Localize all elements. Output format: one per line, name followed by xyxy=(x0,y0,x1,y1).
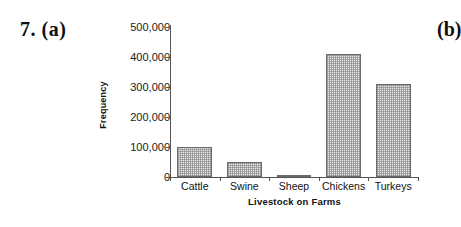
x-tick-mark xyxy=(170,177,171,181)
x-axis-title: Livestock on Farms xyxy=(170,196,419,207)
problem-number-label: 7. (a) xyxy=(20,18,66,41)
bar-cattle xyxy=(177,147,212,177)
x-tick-mark xyxy=(418,177,419,181)
bar-swine xyxy=(227,162,262,177)
bar-chickens xyxy=(326,54,361,177)
y-tick-label: 0 xyxy=(106,171,170,183)
x-tick-label: Chickens xyxy=(322,180,365,192)
x-tick-mark xyxy=(269,177,270,181)
x-tick-label: Swine xyxy=(230,180,259,192)
y-tick-label: 500,000 xyxy=(106,21,170,33)
part-b-label: (b) xyxy=(437,18,461,41)
bar-chart: Frequency 0100,000200,000300,000400,0005… xyxy=(100,14,430,224)
y-tick-label: 400,000 xyxy=(106,51,170,63)
bar-sheep xyxy=(277,175,312,177)
bar-turkeys xyxy=(376,84,411,177)
x-axis-line xyxy=(170,177,419,178)
y-tick-label: 200,000 xyxy=(106,111,170,123)
x-tick-mark xyxy=(368,177,369,181)
x-tick-mark xyxy=(319,177,320,181)
x-tick-label: Sheep xyxy=(279,180,309,192)
x-tick-mark xyxy=(220,177,221,181)
y-tick-label: 300,000 xyxy=(106,81,170,93)
x-tick-label: Cattle xyxy=(181,180,208,192)
y-axis-title: Frequency xyxy=(98,60,108,150)
y-tick-label: 100,000 xyxy=(106,141,170,153)
plot-area xyxy=(170,27,418,177)
x-tick-label: Turkeys xyxy=(375,180,412,192)
